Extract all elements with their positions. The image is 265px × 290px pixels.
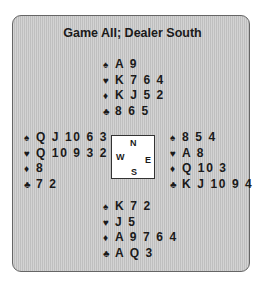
east-diamonds: ♦Q 10 3 (170, 161, 253, 177)
diamond-icon: ♦ (170, 161, 182, 177)
east-hearts: ♥A 8 (170, 146, 253, 162)
compass-east: E (145, 155, 151, 165)
heart-icon: ♥ (170, 146, 182, 162)
diamond-icon: ♦ (24, 161, 36, 177)
club-icon: ♣ (24, 177, 36, 193)
compass-south: S (131, 167, 137, 177)
spade-icon: ♠ (103, 199, 115, 215)
north-diamonds: ♦K J 5 2 (103, 88, 165, 104)
west-spades: ♠Q J 10 6 3 (24, 130, 108, 146)
heart-icon: ♥ (24, 146, 36, 162)
south-diamonds: ♦A 9 7 6 4 (103, 230, 178, 246)
west-clubs: ♣7 2 (24, 177, 108, 193)
north-hearts: ♥K 7 6 4 (103, 73, 165, 89)
club-icon: ♣ (103, 104, 115, 120)
east-clubs: ♣K J 10 9 4 (170, 177, 253, 193)
spade-icon: ♠ (103, 57, 115, 73)
south-hand: ♠K 7 2 ♥J 5 ♦A 9 7 6 4 ♣A Q 3 (103, 199, 178, 261)
south-clubs: ♣A Q 3 (103, 246, 178, 262)
spade-icon: ♠ (170, 130, 182, 146)
south-hearts: ♥J 5 (103, 215, 178, 231)
diamond-icon: ♦ (103, 88, 115, 104)
compass-north: N (130, 138, 137, 148)
compass-box: N W E S (111, 135, 155, 179)
heart-icon: ♥ (103, 73, 115, 89)
south-spades: ♠K 7 2 (103, 199, 178, 215)
club-icon: ♣ (103, 246, 115, 262)
spade-icon: ♠ (24, 130, 36, 146)
west-diamonds: ♦8 (24, 161, 108, 177)
north-spades: ♠A 9 (103, 57, 165, 73)
east-spades: ♠8 5 4 (170, 130, 253, 146)
north-hand: ♠A 9 ♥K 7 6 4 ♦K J 5 2 ♣8 6 5 (103, 57, 165, 119)
compass-west: W (116, 152, 125, 162)
heart-icon: ♥ (103, 215, 115, 231)
north-clubs: ♣8 6 5 (103, 104, 165, 120)
diamond-icon: ♦ (103, 230, 115, 246)
club-icon: ♣ (170, 177, 182, 193)
west-hearts: ♥Q 10 9 3 2 (24, 146, 108, 162)
east-hand: ♠8 5 4 ♥A 8 ♦Q 10 3 ♣K J 10 9 4 (170, 130, 253, 192)
deal-title: Game All; Dealer South (0, 26, 265, 40)
west-hand: ♠Q J 10 6 3 ♥Q 10 9 3 2 ♦8 ♣7 2 (24, 130, 108, 192)
